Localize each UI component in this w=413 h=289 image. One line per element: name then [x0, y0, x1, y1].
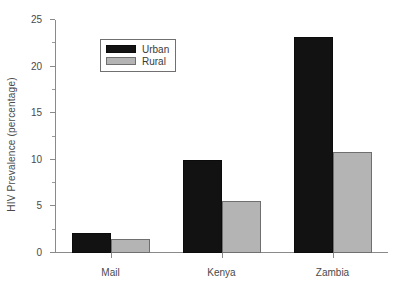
y-tick-minor — [52, 136, 55, 137]
y-tick-0: 0 — [50, 252, 55, 253]
y-tick-label-15: 15 — [31, 107, 42, 118]
x-tick-mail: Mail — [111, 253, 112, 258]
y-tick-label-25: 25 — [31, 14, 42, 25]
y-tick-20: 20 — [50, 66, 55, 67]
bar-chart-figure: HIV Prevalence (percentage) 0510152025 M… — [0, 0, 413, 289]
x-tick-kenya: Kenya — [222, 253, 223, 258]
bar-zambia-rural — [333, 152, 372, 253]
bar-kenya-urban — [183, 160, 222, 253]
y-tick-10: 10 — [50, 159, 55, 160]
bar-mail-rural — [111, 239, 150, 253]
y-tick-label-10: 10 — [31, 153, 42, 164]
y-axis-title: HIV Prevalence (percentage) — [0, 0, 22, 289]
y-tick-label-0: 0 — [36, 247, 42, 258]
y-tick-25: 25 — [50, 19, 55, 20]
y-tick-15: 15 — [50, 112, 55, 113]
legend-item-rural: Rural — [106, 55, 169, 67]
bar-mail-urban — [72, 233, 111, 254]
chart-legend: Urban Rural — [100, 39, 176, 72]
y-tick-minor — [52, 182, 55, 183]
bar-zambia-urban — [294, 37, 333, 253]
legend-swatch-urban-icon — [106, 45, 136, 53]
x-tick-zambia: Zambia — [333, 253, 334, 258]
legend-item-urban: Urban — [106, 43, 169, 55]
bar-kenya-rural — [222, 201, 261, 253]
y-tick-minor — [52, 89, 55, 90]
legend-label-urban: Urban — [142, 44, 169, 55]
x-tick-label-zambia: Zambia — [316, 267, 349, 278]
y-axis-line — [55, 20, 56, 253]
legend-label-rural: Rural — [142, 56, 166, 67]
y-tick-minor — [52, 229, 55, 230]
y-tick-minor — [52, 42, 55, 43]
y-tick-5: 5 — [50, 205, 55, 206]
x-tick-label-mail: Mail — [101, 267, 119, 278]
y-tick-label-20: 20 — [31, 60, 42, 71]
legend-swatch-rural-icon — [106, 57, 136, 65]
x-tick-label-kenya: Kenya — [207, 267, 235, 278]
plot-area: 0510152025 MailKenyaZambia Urban Rural — [55, 20, 388, 253]
y-tick-label-5: 5 — [36, 200, 42, 211]
